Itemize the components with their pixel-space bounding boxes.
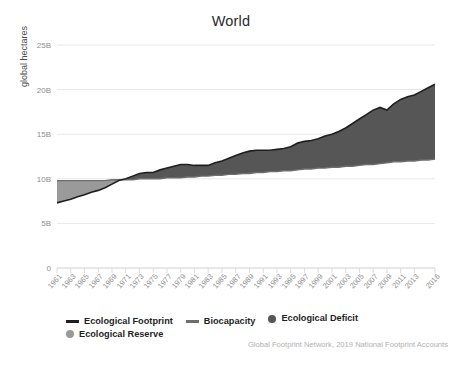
- y-axis-tick-label: 10B: [37, 174, 51, 183]
- y-axis-tick-label: 20B: [37, 85, 51, 94]
- plot-svg: [57, 45, 435, 268]
- legend-item[interactable]: Ecological Footprint: [66, 315, 173, 328]
- chart-title: World: [0, 13, 462, 29]
- y-axis-tick-label: 5B: [41, 219, 51, 228]
- y-axis-label: global hectares: [19, 26, 29, 87]
- legend-item[interactable]: Ecological Deficit: [268, 312, 358, 325]
- chart-legend: Ecological FootprintBiocapacityEcologica…: [66, 312, 396, 342]
- legend-item-label: Biocapacity: [204, 315, 256, 328]
- ecological-deficit-area: [119, 84, 435, 180]
- legend-item-label: Ecological Reserve: [79, 328, 163, 341]
- legend-item[interactable]: Biocapacity: [186, 315, 256, 328]
- legend-item-label: Ecological Deficit: [281, 312, 358, 325]
- y-axis-tick-label: 0: [47, 264, 51, 273]
- legend-line-marker-icon: [66, 320, 79, 323]
- legend-line-marker-icon: [186, 320, 199, 323]
- source-credit: Global Footprint Network, 2019 National …: [248, 340, 448, 349]
- chart-container: World global hectares 05B10B15B20B25B 19…: [0, 0, 462, 366]
- x-axis-tick-label: 2013: [403, 272, 421, 290]
- ecological-reserve-area: [57, 180, 119, 203]
- plot-area: global hectares 05B10B15B20B25B 19611963…: [57, 45, 435, 268]
- legend-dot-marker-icon: [66, 330, 74, 338]
- axis-tick-marks: [57, 268, 435, 273]
- x-axis-tick-label: 2016: [424, 272, 442, 290]
- legend-item-label: Ecological Footprint: [84, 315, 173, 328]
- y-axis-tick-label: 15B: [37, 130, 51, 139]
- legend-dot-marker-icon: [268, 315, 276, 323]
- y-axis-tick-label: 25B: [37, 41, 51, 50]
- legend-item[interactable]: Ecological Reserve: [66, 328, 163, 341]
